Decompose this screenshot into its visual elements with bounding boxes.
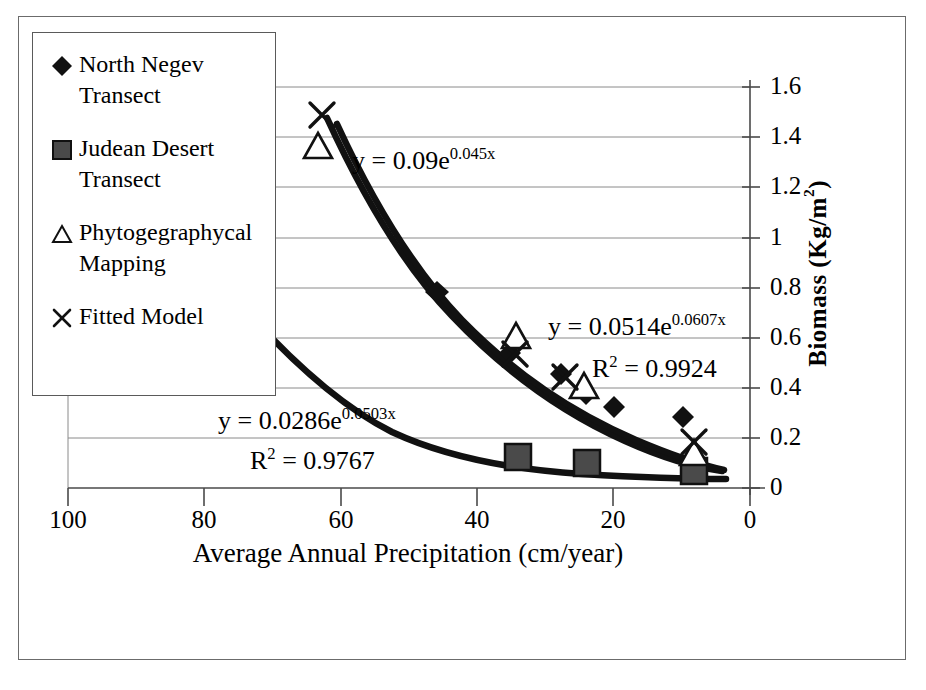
x-axis-ticks bbox=[68, 488, 750, 506]
y-tick-0.2: 0.2 bbox=[770, 423, 801, 451]
y-tick-1.6: 1.6 bbox=[770, 72, 801, 100]
r2-upper-value: = 0.9924 bbox=[618, 354, 717, 383]
legend-label-north-negev: North Negev Transect bbox=[77, 49, 275, 110]
equation-mapping-main: y = 0.09e bbox=[352, 146, 450, 175]
y-tick-0: 0 bbox=[770, 473, 783, 501]
y-tick-1: 1 bbox=[770, 223, 783, 251]
equation-upper-exponent: 0.0607x bbox=[672, 310, 726, 329]
x-tick-20: 20 bbox=[601, 506, 626, 534]
diamond-icon bbox=[47, 49, 77, 77]
equation-upper-main: y = 0.0514e bbox=[548, 312, 672, 341]
chart-legend: North Negev Transect Judean Desert Trans… bbox=[32, 32, 276, 396]
x-tick-100: 100 bbox=[49, 506, 87, 534]
legend-item-judean-desert: Judean Desert Transect bbox=[47, 133, 275, 211]
cross-icon bbox=[47, 301, 77, 329]
equation-mapping-fit: y = 0.09e0.045x bbox=[352, 144, 495, 176]
r2-lower-fit: R2 = 0.9767 bbox=[250, 444, 375, 476]
equation-lower-fit: y = 0.0286e0.0503x bbox=[218, 404, 396, 436]
y-axis-title: Biomass (Kg/m2) bbox=[800, 180, 832, 367]
y-axis-title-base: Biomass (Kg/m bbox=[804, 197, 831, 367]
y-axis-title-tail: ) bbox=[804, 180, 831, 189]
square-icon bbox=[47, 133, 77, 161]
x-tick-60: 60 bbox=[329, 506, 354, 534]
equation-mapping-exponent: 0.045x bbox=[450, 144, 496, 163]
y-tick-0.4: 0.4 bbox=[770, 373, 801, 401]
r2-lower-superscript: 2 bbox=[267, 444, 275, 463]
r2-lower-base: R bbox=[250, 446, 267, 475]
r2-lower-value: = 0.9767 bbox=[276, 446, 375, 475]
y-axis-title-superscript: 2 bbox=[800, 189, 817, 197]
x-tick-0: 0 bbox=[744, 506, 757, 534]
equation-lower-exponent: 0.0503x bbox=[342, 404, 396, 423]
r2-upper-base: R bbox=[592, 354, 609, 383]
legend-item-north-negev: North Negev Transect bbox=[47, 49, 275, 127]
r2-upper-superscript: 2 bbox=[609, 352, 617, 371]
y-tick-1.4: 1.4 bbox=[770, 122, 801, 150]
r2-upper-fit: R2 = 0.9924 bbox=[592, 352, 717, 384]
chart-figure: 1.6 1.4 1.2 1 0.8 0.6 0.4 0.2 0 100 80 6… bbox=[0, 0, 926, 690]
legend-item-phytogeographycal: Phytogegraphycal Mapping bbox=[47, 217, 275, 295]
x-tick-80: 80 bbox=[192, 506, 217, 534]
x-axis-title: Average Annual Precipitation (cm/year) bbox=[108, 538, 708, 569]
y-axis-ticks bbox=[742, 87, 760, 488]
legend-label-phytogeographycal: Phytogegraphycal Mapping bbox=[77, 217, 275, 278]
equation-lower-main: y = 0.0286e bbox=[218, 406, 342, 435]
equation-upper-fit: y = 0.0514e0.0607x bbox=[548, 310, 726, 342]
triangle-icon bbox=[47, 217, 77, 245]
y-tick-1.2: 1.2 bbox=[770, 172, 801, 200]
y-tick-0.6: 0.6 bbox=[770, 323, 801, 351]
legend-label-judean-desert: Judean Desert Transect bbox=[77, 133, 275, 194]
legend-label-fitted-model: Fitted Model bbox=[77, 301, 204, 332]
legend-item-fitted-model: Fitted Model bbox=[47, 301, 275, 379]
x-tick-40: 40 bbox=[465, 506, 490, 534]
y-tick-0.8: 0.8 bbox=[770, 273, 801, 301]
